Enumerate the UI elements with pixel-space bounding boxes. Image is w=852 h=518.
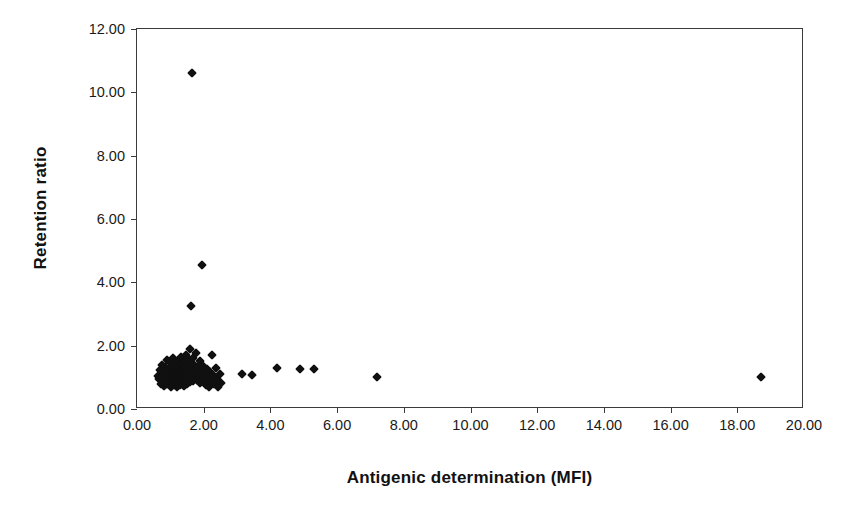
y-tick-label: 8.00 <box>97 148 125 164</box>
x-tick-mark <box>671 407 672 413</box>
data-point <box>197 260 207 270</box>
y-tick-mark <box>131 409 137 410</box>
x-tick-mark <box>204 407 205 413</box>
y-tick-label: 4.00 <box>97 274 125 290</box>
x-tick-label: 16.00 <box>652 417 688 433</box>
x-tick-label: 20.00 <box>786 417 822 433</box>
y-tick-mark <box>131 92 137 93</box>
y-tick-mark <box>131 282 137 283</box>
data-point <box>295 364 305 374</box>
scatter-chart-figure: Retention ratio 0.002.004.006.008.0010.0… <box>0 0 852 518</box>
x-tick-label: 18.00 <box>719 417 755 433</box>
data-point <box>756 372 766 382</box>
x-tick-label: 0.00 <box>123 417 151 433</box>
x-tick-mark <box>604 407 605 413</box>
y-tick-mark <box>131 346 137 347</box>
data-point <box>372 372 382 382</box>
x-tick-label: 6.00 <box>323 417 351 433</box>
y-tick-label: 0.00 <box>97 401 125 417</box>
data-point <box>272 363 282 373</box>
x-tick-mark <box>737 407 738 413</box>
data-point <box>309 364 319 374</box>
y-tick-label: 12.00 <box>89 21 125 37</box>
y-axis-title: Retention ratio <box>18 18 64 398</box>
x-tick-mark <box>537 407 538 413</box>
x-tick-label: 2.00 <box>190 417 218 433</box>
x-tick-mark <box>337 407 338 413</box>
y-tick-label: 6.00 <box>97 211 125 227</box>
data-point <box>207 350 217 360</box>
y-tick-label: 2.00 <box>97 338 125 354</box>
y-tick-mark <box>131 29 137 30</box>
data-point <box>186 301 196 311</box>
data-point <box>237 369 247 379</box>
x-tick-label: 8.00 <box>390 417 418 433</box>
x-tick-label: 10.00 <box>452 417 488 433</box>
x-tick-mark <box>471 407 472 413</box>
x-axis-title: Antigenic determination (MFI) <box>136 468 803 488</box>
y-tick-label: 10.00 <box>89 84 125 100</box>
x-tick-mark <box>270 407 271 413</box>
plot-area: 0.002.004.006.008.0010.0012.00 0.002.004… <box>136 28 803 408</box>
x-tick-label: 12.00 <box>519 417 555 433</box>
x-tick-label: 4.00 <box>256 417 284 433</box>
y-tick-mark <box>131 156 137 157</box>
data-point <box>187 68 197 78</box>
x-tick-mark <box>404 407 405 413</box>
data-point <box>247 370 257 380</box>
x-tick-label: 14.00 <box>586 417 622 433</box>
y-tick-mark <box>131 219 137 220</box>
